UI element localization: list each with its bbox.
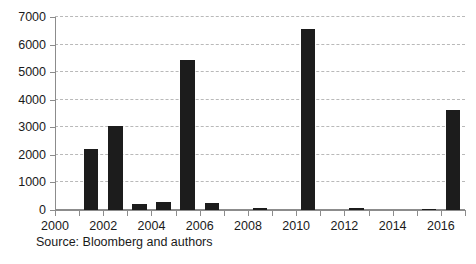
y-tick-label-2000: 2000	[2, 149, 46, 161]
x-tick-2005	[176, 211, 177, 216]
y-tick-1000	[50, 182, 55, 183]
x-tick-2013	[369, 211, 370, 216]
chart-figure: 01000200030004000500060007000 2000200220…	[0, 0, 476, 264]
bar-2016	[446, 110, 460, 210]
x-tick-2017	[465, 211, 466, 216]
x-tick-2011	[320, 211, 321, 216]
x-tick-2008	[248, 211, 249, 216]
y-tick-label-3000: 3000	[2, 121, 46, 133]
y-tick-label-1000: 1000	[2, 176, 46, 188]
y-tick-4000	[50, 100, 55, 101]
x-tick-2004	[151, 211, 152, 216]
x-tick-2014	[393, 211, 394, 216]
y-tick-2000	[50, 155, 55, 156]
x-tick-2003	[127, 211, 128, 216]
y-tick-label-0: 0	[2, 204, 46, 216]
x-tick-2016	[441, 211, 442, 216]
bar-2010	[301, 29, 315, 210]
x-tick-2002	[103, 211, 104, 216]
bar-2002	[108, 126, 122, 210]
bar-2006	[205, 203, 219, 210]
x-tick-2009	[272, 211, 273, 216]
y-tick-label-4000: 4000	[2, 94, 46, 106]
x-tick-label-2016: 2016	[411, 219, 471, 233]
bar-2004	[156, 202, 170, 210]
x-tick-2012	[344, 211, 345, 216]
y-tick-label-7000: 7000	[2, 11, 46, 23]
x-tick-2015	[417, 211, 418, 216]
y-tick-label-5000: 5000	[2, 66, 46, 78]
x-tick-2006	[200, 211, 201, 216]
source-caption: Source: Bloomberg and authors	[36, 235, 213, 250]
chart-bars	[55, 17, 465, 210]
bar-2001	[84, 149, 98, 210]
y-tick-7000	[50, 17, 55, 18]
bar-2005	[180, 60, 194, 210]
x-tick-2010	[296, 211, 297, 216]
y-tick-label-6000: 6000	[2, 39, 46, 51]
y-axis-line	[55, 17, 56, 211]
x-axis-line	[55, 210, 466, 211]
y-tick-3000	[50, 127, 55, 128]
x-tick-2000	[55, 211, 56, 216]
x-tick-2007	[224, 211, 225, 216]
x-tick-2001	[79, 211, 80, 216]
y-tick-5000	[50, 72, 55, 73]
y-tick-6000	[50, 45, 55, 46]
